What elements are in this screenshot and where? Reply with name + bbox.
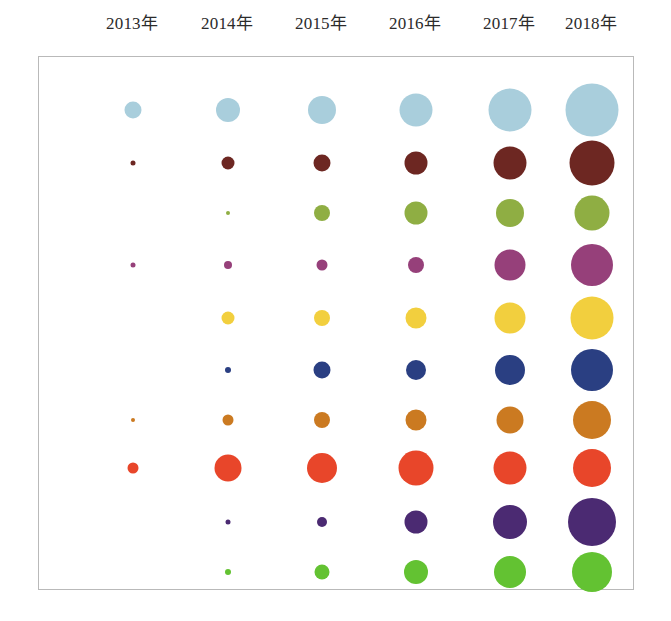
year-label-3: 2016年	[389, 14, 441, 34]
year-label-0: 2013年	[106, 14, 158, 34]
bubble-s10-2014[interactable]	[225, 569, 231, 575]
year-label-4: 2017年	[483, 14, 535, 34]
bubble-s10-2015[interactable]	[315, 565, 330, 580]
bubble-s10-2017[interactable]	[494, 556, 526, 588]
bubble-series-10	[39, 57, 633, 589]
plot-area	[38, 56, 634, 590]
year-label-2: 2015年	[295, 14, 347, 34]
bubble-s10-2018[interactable]	[572, 552, 612, 592]
bubble-s10-2016[interactable]	[404, 560, 428, 584]
bubble-layer	[39, 57, 633, 589]
bubble-chart: 2013年2014年2015年2016年2017年2018年	[0, 0, 671, 621]
year-label-1: 2014年	[201, 14, 253, 34]
year-header-row: 2013年2014年2015年2016年2017年2018年	[0, 0, 671, 56]
year-label-5: 2018年	[565, 14, 617, 34]
